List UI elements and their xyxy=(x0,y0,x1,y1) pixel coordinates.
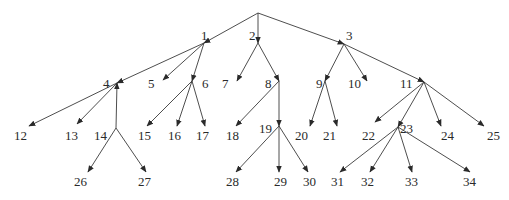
node-label-6: 6 xyxy=(202,76,209,91)
node-label-22: 22 xyxy=(362,128,375,143)
node-label-13: 13 xyxy=(65,128,78,143)
edge-root-to-3 xyxy=(258,13,344,44)
node-label-29: 29 xyxy=(274,174,287,189)
node-label-10: 10 xyxy=(348,76,361,91)
node-label-14: 14 xyxy=(94,128,108,143)
node-label-11: 11 xyxy=(400,76,413,91)
node-label-8: 8 xyxy=(265,76,272,91)
edge-1-to-4 xyxy=(117,43,204,83)
edge-6-to-16 xyxy=(177,81,192,126)
node-label-21: 21 xyxy=(323,128,336,143)
node-label-1: 1 xyxy=(201,28,208,43)
node-label-15: 15 xyxy=(138,128,151,143)
edge-14-to-4 xyxy=(116,83,117,128)
node-label-7: 7 xyxy=(222,76,229,91)
node-label-34: 34 xyxy=(463,174,477,189)
node-label-3: 3 xyxy=(346,28,353,43)
node-label-30: 30 xyxy=(303,174,316,189)
node-label-12: 12 xyxy=(14,128,27,143)
node-label-33: 33 xyxy=(405,174,418,189)
edge-8-to-18 xyxy=(236,81,279,126)
node-label-26: 26 xyxy=(74,174,88,189)
edge-4-to-13 xyxy=(77,83,117,124)
edge-2-to-7 xyxy=(237,43,258,81)
node-label-4: 4 xyxy=(103,76,110,91)
node-label-16: 16 xyxy=(168,128,182,143)
node-label-18: 18 xyxy=(226,128,239,143)
edge-19-to-28 xyxy=(236,126,279,172)
node-label-28: 28 xyxy=(226,174,239,189)
tree-edges xyxy=(29,13,484,172)
node-label-24: 24 xyxy=(441,128,455,143)
edge-9-to-21 xyxy=(325,81,337,126)
node-label-2: 2 xyxy=(249,28,256,43)
tree-diagram: 1234567891011121314151617181920212223242… xyxy=(0,0,509,200)
edge-11-to-25 xyxy=(424,82,484,126)
node-label-31: 31 xyxy=(331,174,344,189)
node-label-32: 32 xyxy=(361,174,374,189)
node-label-19: 19 xyxy=(259,121,272,136)
node-label-25: 25 xyxy=(487,128,500,143)
tree-labels: 1234567891011121314151617181920212223242… xyxy=(14,28,500,189)
node-label-17: 17 xyxy=(196,128,210,143)
edge-3-to-9 xyxy=(325,44,344,81)
node-label-9: 9 xyxy=(316,76,323,91)
node-label-20: 20 xyxy=(295,128,308,143)
node-label-23: 23 xyxy=(400,121,413,136)
node-label-27: 27 xyxy=(138,174,152,189)
node-label-5: 5 xyxy=(148,76,155,91)
